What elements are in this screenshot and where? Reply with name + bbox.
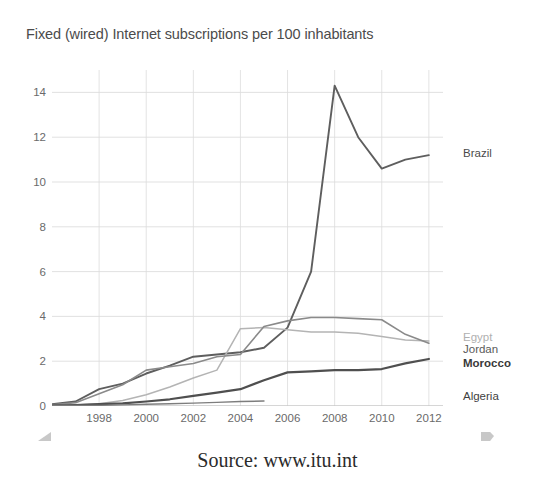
series-label-jordan: Jordan [463,343,498,355]
x-axis: 19982000200220042006200820102012 [52,412,443,432]
series-label-morocco: Morocco [463,357,511,369]
scan-artifact-left-icon [38,432,51,441]
source-caption: Source: www.itu.int [0,449,555,472]
y-tick-label: 10 [16,176,46,188]
series-label-algeria: Algeria [463,390,499,402]
y-tick-label: 2 [16,355,46,367]
chart-figure: Fixed (wired) Internet subscriptions per… [0,0,555,484]
y-tick-label: 4 [16,310,46,322]
y-axis: 02468101214 [8,70,46,406]
plot-background [52,70,443,406]
chart-title: Fixed (wired) Internet subscriptions per… [26,26,546,42]
y-tick-label: 6 [16,266,46,278]
plot-canvas [52,70,443,406]
y-tick-label: 12 [16,131,46,143]
y-tick-label: 0 [16,400,46,412]
y-tick-label: 14 [16,86,46,98]
series-label-egypt: Egypt [463,331,492,343]
series-end-labels: BrazilEgyptJordanMoroccoAlgeria [449,70,555,420]
plot-area [52,70,443,406]
y-tick-label: 8 [16,221,46,233]
scan-artifact-right-icon [481,432,494,441]
series-label-brazil: Brazil [463,147,492,159]
